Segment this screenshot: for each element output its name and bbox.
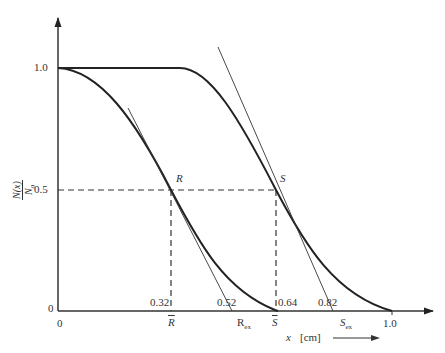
value-label-s: 0.64 [278,296,297,308]
x-tick-label-1: 1.0 [383,317,397,329]
axis-label-sex: Sex [340,316,352,331]
y-label-denominator: N0 [23,180,39,200]
x-axis-label-var: x [286,331,291,343]
axis-label-sbar: S [272,316,278,328]
x-axis-label-unit: [cm] [300,331,321,343]
chart: 1.0 0.5 0 0 1.0 N(x) N0 R S 0.32 0.52 0.… [0,0,445,353]
point-label-s: S [280,172,286,184]
y-axis-label: N(x) N0 [11,165,35,215]
y-tick-label-0: 0 [48,302,54,314]
value-label-rex: 0.52 [217,296,236,308]
y-label-numerator: N(x) [11,180,23,200]
y-tick-label-1: 1.0 [34,61,48,73]
axis-label-rex: Rex [237,316,251,331]
value-label-sex: 0.82 [318,296,337,308]
tangent-r [128,108,232,311]
axis-label-rbar: R [168,316,175,328]
x-tick-label-0: 0 [57,317,63,329]
value-label-r: 0.32 [150,296,169,308]
x-direction-arrow-icon [333,332,383,344]
point-label-r: R [176,172,183,184]
